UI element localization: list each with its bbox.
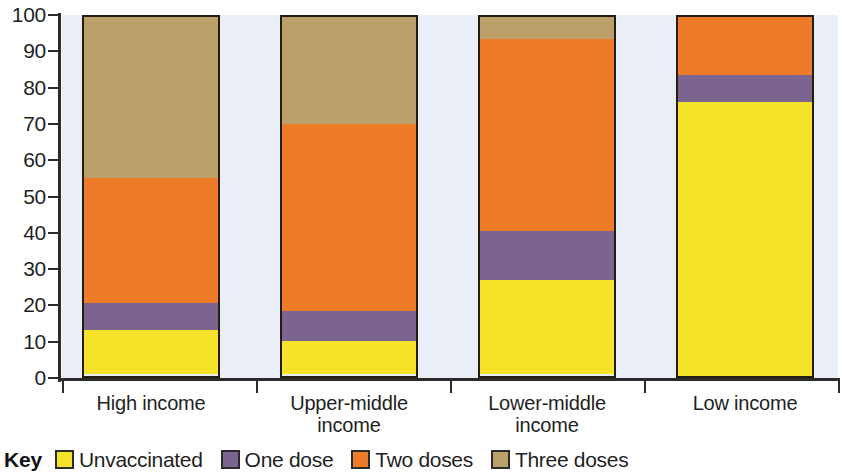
bar-segment-one-dose[interactable] (282, 311, 416, 344)
legend-item[interactable]: Two doses (351, 448, 473, 472)
y-tick-mark (48, 159, 59, 161)
y-tick-mark (48, 123, 59, 125)
y-axis-line (58, 13, 61, 382)
x-category-label: Lower-middleincome (450, 392, 644, 436)
y-tick-mark (48, 196, 59, 198)
y-tick-label: 40 (2, 222, 46, 243)
x-category-label-line: Lower-middle (450, 392, 644, 414)
stacked-bar[interactable] (478, 15, 616, 378)
x-category-label: Low income (648, 392, 842, 414)
y-tick-mark (48, 14, 59, 16)
x-tick-mark (644, 380, 646, 393)
bar-segment-three-doses[interactable] (282, 17, 416, 126)
bar-segment-two-doses[interactable] (678, 17, 812, 77)
legend: Key UnvaccinatedOne doseTwo dosesThree d… (4, 445, 646, 474)
y-tick-mark (48, 377, 59, 379)
bar-group (676, 15, 814, 378)
legend-label: Three doses (515, 448, 628, 472)
legend-items: UnvaccinatedOne doseTwo dosesThree doses (55, 448, 646, 472)
bar-segment-two-doses[interactable] (282, 124, 416, 313)
y-tick-label: 80 (2, 77, 46, 98)
bar-segment-two-doses[interactable] (480, 39, 614, 233)
bar-group (280, 15, 418, 378)
x-category-label-line: income (450, 414, 644, 436)
bar-segment-two-doses[interactable] (84, 178, 218, 305)
x-category-label: Upper-middleincome (252, 392, 446, 436)
legend-swatch-icon (221, 450, 240, 469)
stacked-bar[interactable] (676, 15, 814, 378)
legend-label: Two doses (375, 448, 473, 472)
y-tick-label: 0 (2, 367, 46, 388)
y-tick-label: 100 (2, 4, 46, 25)
legend-swatch-icon (55, 450, 74, 469)
legend-swatch-icon (491, 450, 510, 469)
x-category-label-line: Upper-middle (252, 392, 446, 414)
bar-segment-one-dose[interactable] (480, 231, 614, 282)
bar-segment-one-dose[interactable] (678, 75, 812, 104)
bar-segment-unvaccinated[interactable] (282, 341, 416, 374)
y-tick-label: 10 (2, 331, 46, 352)
legend-key-word: Key (4, 448, 42, 472)
bar-segment-unvaccinated[interactable] (480, 280, 614, 374)
legend-swatch-icon (351, 450, 370, 469)
bar-segment-one-dose[interactable] (84, 303, 218, 332)
y-tick-label: 90 (2, 40, 46, 61)
bar-group (478, 15, 616, 378)
stacked-bar-chart: 1009080706050403020100 High incomeUpper-… (0, 0, 842, 474)
stacked-bar[interactable] (280, 15, 418, 378)
bar-segment-three-doses[interactable] (84, 17, 218, 180)
legend-label: Unvaccinated (79, 448, 203, 472)
y-tick-label: 50 (2, 186, 46, 207)
x-category-label: High income (54, 392, 248, 414)
y-tick-mark (48, 87, 59, 89)
bar-group (82, 15, 220, 378)
legend-item[interactable]: One dose (221, 448, 334, 472)
y-tick-label: 20 (2, 294, 46, 315)
y-tick-mark (48, 232, 59, 234)
legend-label: One dose (245, 448, 334, 472)
bar-segment-unvaccinated[interactable] (84, 330, 218, 374)
y-tick-label: 30 (2, 258, 46, 279)
legend-item[interactable]: Unvaccinated (55, 448, 203, 472)
y-tick-label: 60 (2, 149, 46, 170)
y-tick-mark (48, 341, 59, 343)
x-category-label-line: High income (54, 392, 248, 414)
y-tick-mark (48, 304, 59, 306)
y-tick-mark (48, 268, 59, 270)
x-category-label-line: Low income (648, 392, 842, 414)
x-category-label-line: income (252, 414, 446, 436)
stacked-bar[interactable] (82, 15, 220, 378)
bar-segment-three-doses[interactable] (480, 17, 614, 41)
legend-item[interactable]: Three doses (491, 448, 628, 472)
y-tick-mark (48, 50, 59, 52)
y-axis-tick-labels: 1009080706050403020100 (0, 0, 46, 400)
bar-segment-unvaccinated[interactable] (678, 102, 812, 376)
y-tick-label: 70 (2, 113, 46, 134)
x-axis-line (58, 378, 840, 381)
